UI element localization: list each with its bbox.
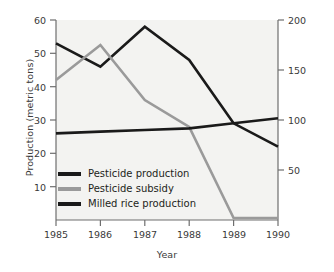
right-tick-label: 200 <box>288 15 314 26</box>
right-tick-label: 50 <box>288 165 314 176</box>
legend-item: Milled rice production <box>58 196 196 211</box>
left-tick-label: 60 <box>20 15 46 26</box>
bottom-axis-ticks <box>56 220 278 226</box>
legend-label: Milled rice production <box>88 198 196 209</box>
right-tick-label: 150 <box>288 65 314 76</box>
legend-label: Pesticide subsidy <box>88 183 174 194</box>
x-tick-label: 1989 <box>214 229 254 240</box>
left-axis-ticks <box>50 20 56 187</box>
x-tick-label: 1988 <box>169 229 209 240</box>
chart-figure: 60 50 40 30 20 10 200 150 100 50 1985 19… <box>0 0 334 272</box>
right-tick-label: 100 <box>288 115 314 126</box>
right-axis-ticks <box>278 20 284 170</box>
legend-swatch-icon <box>58 202 81 206</box>
legend-item: Pesticide production <box>58 166 196 181</box>
x-tick-label: 1986 <box>80 229 120 240</box>
chart-legend: Pesticide production Pesticide subsidy M… <box>58 166 196 211</box>
legend-swatch-icon <box>58 187 81 191</box>
x-axis-title: Year <box>0 249 334 260</box>
y-axis-title-left: Production (metric tons) <box>24 33 35 203</box>
x-tick-label: 1985 <box>36 229 76 240</box>
legend-item: Pesticide subsidy <box>58 181 196 196</box>
legend-swatch-icon <box>58 172 81 176</box>
x-tick-label: 1990 <box>258 229 298 240</box>
legend-label: Pesticide production <box>88 168 189 179</box>
x-tick-label: 1987 <box>125 229 165 240</box>
